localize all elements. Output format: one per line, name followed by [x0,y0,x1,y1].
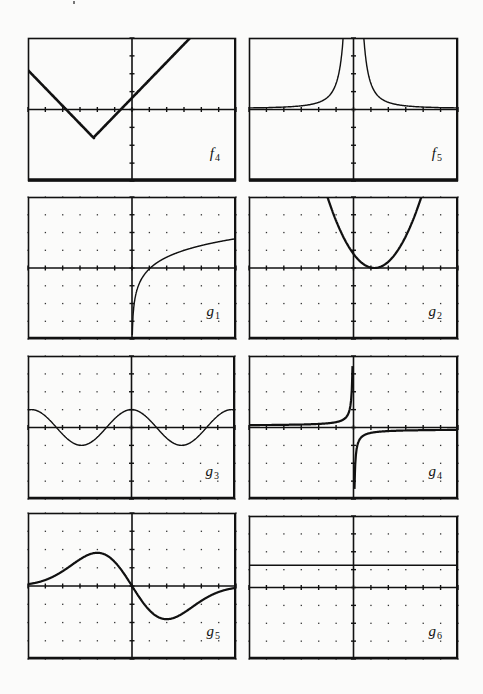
function-subscript: 1 [215,310,220,321]
axes [28,356,235,499]
function-subscript: 4 [437,470,442,481]
graph-panel-g1: g1 [28,197,236,339]
graph-panel-g5: g5 [28,513,236,659]
function-name: g [207,623,215,639]
function-label-g4: g4 [429,464,443,481]
axes [28,38,236,181]
function-subscript: 5 [215,630,220,641]
graph-panel-g4: g4 [249,356,458,499]
graph-g1 [28,197,236,339]
function-label-g5: g5 [207,624,221,641]
axes [28,197,236,339]
axes [249,516,458,659]
axes [249,197,458,339]
function-label-g1: g1 [207,304,221,321]
axes [249,356,458,499]
function-subscript: 5 [437,152,442,163]
function-curve [132,239,236,335]
graph-g3 [28,356,235,499]
graph-panel-g2: g2 [249,197,458,339]
graph-panel-g6: g6 [249,516,458,659]
function-name: g [206,463,214,479]
function-name: g [429,303,437,319]
function-name: f [210,145,214,161]
graph-panel-f5: f5 [249,38,458,181]
function-subscript: 4 [215,152,220,163]
function-curve [28,33,195,138]
function-subscript: 6 [437,630,442,641]
graph-panel-g3: g3 [28,356,235,499]
function-label-g6: g6 [429,624,443,641]
graph-g6 [249,516,458,659]
graph-g4 [249,356,458,499]
function-subscript: 3 [214,470,219,481]
graph-g5 [28,513,236,659]
graph-panel-f4: f4 [28,38,236,181]
function-name: g [207,303,215,319]
graph-f5 [249,38,458,181]
axes [249,38,458,181]
function-label-g3: g3 [206,464,220,481]
graph-g2 [249,197,458,339]
function-name: g [429,463,437,479]
function-subscript: 2 [437,310,442,321]
stray-mark [73,1,75,4]
function-label-f4: f4 [210,146,220,163]
graph-f4 [28,38,236,181]
function-curve [326,193,423,268]
function-label-g2: g2 [429,304,443,321]
function-name: g [429,623,437,639]
function-name: f [432,145,436,161]
function-label-f5: f5 [432,146,442,163]
